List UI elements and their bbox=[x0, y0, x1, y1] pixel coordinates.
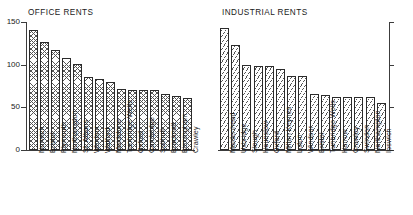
category-label-industrial-9: Tunbridge Wells bbox=[328, 100, 337, 153]
y-axis-left bbox=[26, 22, 27, 151]
category-label-industrial-14: Ipswich bbox=[384, 128, 393, 153]
category-label-office-5: Windsor bbox=[92, 126, 101, 153]
chart-canvas: OFFICE RENTS INDUSTRIAL RENTS 150 100 50… bbox=[0, 0, 413, 215]
y-tick-50 bbox=[21, 107, 26, 108]
category-label-industrial-13: Northampton bbox=[373, 110, 382, 153]
category-label-industrial-1: Uxbridge bbox=[239, 123, 248, 153]
category-label-office-1: Bristol bbox=[48, 132, 57, 153]
industrial-rents-title: INDUSTRIAL RENTS bbox=[222, 8, 308, 17]
category-label-industrial-7: Windsor bbox=[306, 126, 315, 153]
category-label-office-12: Bracknell bbox=[169, 123, 178, 153]
y-axis-right-tick-150 bbox=[389, 22, 394, 23]
category-label-industrial-2: Slough bbox=[250, 130, 259, 153]
category-label-office-7: Maidstone bbox=[114, 119, 123, 153]
category-label-industrial-6: Luton bbox=[295, 135, 304, 154]
category-label-office-4: St. Albans bbox=[81, 120, 90, 153]
category-label-office-11: Solihull bbox=[158, 129, 167, 153]
category-label-office-8: Tunbridge Wells bbox=[125, 100, 134, 153]
category-label-industrial-0: Maidenhead bbox=[228, 112, 237, 153]
category-label-industrial-12: Swindon bbox=[362, 125, 371, 153]
category-label-industrial-8: Bristol bbox=[317, 132, 326, 153]
y-tick-100 bbox=[21, 65, 26, 66]
category-label-industrial-10: Harrow bbox=[340, 129, 349, 153]
y-tick-label-50: 50 bbox=[0, 102, 20, 111]
category-label-office-3: Northampton bbox=[70, 110, 79, 153]
category-label-industrial-11: Crawley bbox=[351, 126, 360, 153]
y-tick-label-100: 100 bbox=[0, 60, 20, 69]
category-label-industrial-4: Oxford bbox=[272, 131, 281, 153]
y-tick-label-0: 0 bbox=[0, 145, 20, 154]
category-label-industrial-3: Hounslow bbox=[261, 121, 270, 153]
y-tick-label-150: 150 bbox=[0, 17, 20, 26]
category-label-office-10: Cambridge bbox=[147, 117, 156, 153]
category-label-office-9: Oxford bbox=[136, 131, 145, 153]
category-label-office-2: Plymouth bbox=[59, 122, 68, 153]
category-label-office-13: Birmingham bbox=[180, 114, 189, 153]
y-axis-right-tick-50 bbox=[389, 107, 394, 108]
office-rents-title: OFFICE RENTS bbox=[28, 8, 93, 17]
category-label-office-14: Crawley bbox=[191, 126, 200, 153]
y-tick-150 bbox=[21, 22, 26, 23]
category-label-industrial-5: Milton Keynes bbox=[284, 107, 293, 153]
category-label-office-6: Watford bbox=[103, 127, 112, 153]
category-label-office-0: Norwich bbox=[37, 126, 46, 153]
y-axis-right-tick-100 bbox=[389, 65, 394, 66]
